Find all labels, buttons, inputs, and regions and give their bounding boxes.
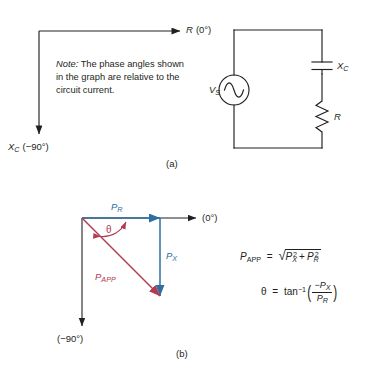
phasor-label-papp-subscript: APP <box>101 275 115 284</box>
paren-open-icon: ( <box>307 281 311 303</box>
formula-theta-fraction: −PXPR <box>312 280 332 304</box>
formula-papp-term2-sup: 2 <box>315 250 319 259</box>
formula-papp-lhs-subscript: APP <box>247 255 261 264</box>
note-prefix: Note: <box>56 59 78 69</box>
phasor-label-px: PX <box>166 250 177 263</box>
resistor-label-symbol: R <box>334 111 341 122</box>
theta-label: θ <box>106 223 112 236</box>
formula-theta: θ = tan−1(−PXPR) <box>261 280 339 304</box>
paren-close-icon: ) <box>334 281 338 303</box>
theta-angle-arc <box>101 222 127 237</box>
phasor-label-pr: PR <box>111 201 123 214</box>
caption-panel-b-text: (b) <box>176 348 188 359</box>
axis-label-r-symbol: R <box>186 24 193 35</box>
axis-label-zero-panel-b: (0°) <box>202 212 217 225</box>
formula-theta-func-exp: −1 <box>298 285 306 294</box>
formula-papp-radicand: PX2+PR2 <box>285 249 321 264</box>
formula-papp-equals: = <box>267 251 273 262</box>
formula-papp-term1-sup: 2 <box>293 250 297 259</box>
formula-theta-den-sub: R <box>323 295 328 304</box>
caption-panel-a: (a) <box>166 158 178 169</box>
sine-wave-icon <box>225 83 244 97</box>
formula-papp-term2-base: P <box>307 251 314 262</box>
axis-label-xc-panel-a: XC(−90°) <box>8 141 49 154</box>
phasor-vectors <box>82 218 160 296</box>
theta-label-symbol: θ <box>106 224 112 235</box>
axis-label-xc-subscript: C <box>14 145 19 154</box>
phasor-label-papp: PAPP <box>95 271 116 284</box>
formula-theta-denominator: PR <box>312 293 332 305</box>
formula-papp-plus: + <box>299 251 305 262</box>
axis-label-r-angle: (0°) <box>196 24 211 35</box>
phasor-label-pr-subscript: R <box>117 205 122 214</box>
formula-theta-equals: = <box>272 286 278 297</box>
formula-theta-lhs: θ <box>261 286 267 297</box>
axis-label-neg90-panel-b: (−90°) <box>57 333 83 346</box>
circuit-diagram <box>219 30 332 148</box>
note-text: Note: The phase angles shown in the grap… <box>56 58 192 98</box>
caption-panel-b: (b) <box>176 348 188 359</box>
source-label: VS <box>209 84 220 97</box>
figure-canvas <box>0 0 367 367</box>
formula-theta-func: tan <box>284 286 298 297</box>
axis-label-neg90-text: (−90°) <box>57 333 83 344</box>
phasor-label-px-subscript: X <box>172 254 177 263</box>
caption-panel-a-text: (a) <box>166 158 178 169</box>
axis-label-zero-text: (0°) <box>202 212 217 223</box>
capacitor-label: XC <box>337 60 349 73</box>
formula-papp: PAPP = √PX2+PR2 <box>240 248 321 264</box>
formula-papp-lhs-symbol: P <box>240 251 247 262</box>
formula-theta-num-sub: X <box>326 283 331 292</box>
resistor-label: R <box>334 111 341 124</box>
axis-label-xc-angle: (−90°) <box>23 141 49 152</box>
formula-theta-numerator: −PX <box>312 280 332 293</box>
resistor-symbol <box>316 101 328 132</box>
source-label-subscript: S <box>215 88 220 97</box>
axis-label-r-panel-a: R(0°) <box>186 24 211 37</box>
capacitor-label-subscript: C <box>343 64 348 73</box>
